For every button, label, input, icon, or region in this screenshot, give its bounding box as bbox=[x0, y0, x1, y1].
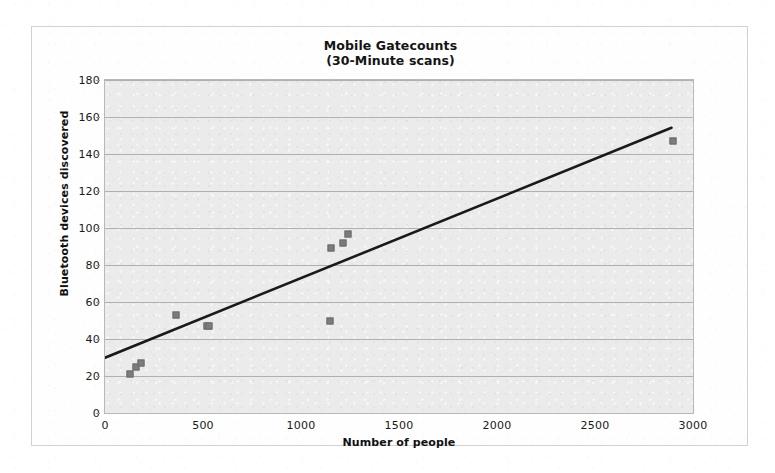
y-tick-mark bbox=[96, 302, 100, 303]
y-tick-mark bbox=[96, 339, 100, 340]
y-tick-label: 40 bbox=[60, 333, 100, 346]
y-tick-mark bbox=[96, 154, 100, 155]
x-axis-title: Number of people bbox=[104, 436, 694, 449]
data-point bbox=[340, 239, 347, 246]
x-axis-tick-labels: 050010001500200025003000 bbox=[104, 419, 694, 435]
chart-title: Mobile Gatecounts (30-Minute scans) bbox=[32, 38, 749, 68]
y-tick-mark bbox=[96, 80, 100, 81]
x-tick-label: 500 bbox=[173, 419, 233, 432]
data-point bbox=[172, 311, 179, 318]
gridline bbox=[105, 413, 693, 414]
data-point bbox=[327, 317, 334, 324]
y-tick-label: 20 bbox=[60, 370, 100, 383]
y-tick-mark bbox=[96, 413, 100, 414]
y-axis-title: Bluetooth devices discovered bbox=[58, 79, 71, 329]
data-point bbox=[138, 360, 145, 367]
data-point bbox=[205, 323, 212, 330]
plot-area bbox=[104, 79, 694, 414]
chart-frame: Mobile Gatecounts (30-Minute scans) 0204… bbox=[31, 26, 748, 446]
data-point bbox=[345, 230, 352, 237]
y-tick-mark bbox=[96, 117, 100, 118]
y-tick-label: 0 bbox=[60, 407, 100, 420]
data-point bbox=[670, 138, 677, 145]
y-tick-mark bbox=[96, 376, 100, 377]
x-tick-label: 1500 bbox=[369, 419, 429, 432]
y-tick-mark bbox=[96, 191, 100, 192]
x-tick-label: 0 bbox=[75, 419, 135, 432]
chart-title-line-2: (30-Minute scans) bbox=[32, 53, 749, 68]
data-point bbox=[328, 245, 335, 252]
data-point bbox=[127, 371, 134, 378]
chart-title-line-1: Mobile Gatecounts bbox=[324, 38, 457, 53]
y-tick-mark bbox=[96, 265, 100, 266]
y-tick-mark bbox=[96, 228, 100, 229]
x-tick-label: 1000 bbox=[271, 419, 331, 432]
x-tick-label: 3000 bbox=[663, 419, 723, 432]
x-tick-label: 2500 bbox=[565, 419, 625, 432]
x-tick-label: 2000 bbox=[467, 419, 527, 432]
trend-line bbox=[105, 80, 693, 413]
